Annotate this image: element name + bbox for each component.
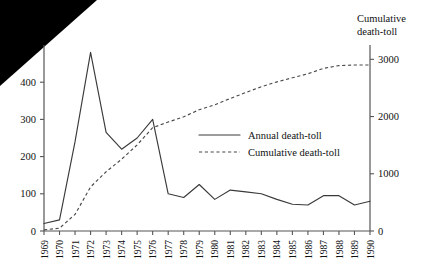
x-axis: 1969197019711972197319741975197619771978… (40, 231, 376, 259)
left-axis-tick-label: 200 (20, 151, 36, 162)
x-axis-tick-label: 1976 (148, 240, 158, 259)
chart-legend: Annual death-toll Cumulative death-toll (199, 130, 340, 158)
x-axis-tick-label: 1985 (288, 240, 298, 259)
left-axis-tick-label: 400 (20, 77, 36, 88)
x-axis-tick-label: 1982 (241, 240, 251, 259)
x-axis-tick-label: 1987 (319, 240, 329, 259)
x-axis-tick-label: 1977 (164, 240, 174, 259)
right-axis-tick-label: 2000 (378, 111, 399, 122)
left-axis: 0100200300400 (20, 45, 44, 237)
x-axis-tick-label: 1983 (257, 240, 267, 259)
right-axis-tick-label: 1000 (378, 168, 399, 179)
x-axis-tick-label: 1975 (133, 240, 143, 259)
right-axis-tick-label: 3000 (378, 54, 399, 65)
right-axis-tick-label: 0 (378, 226, 383, 237)
series-layer (44, 52, 370, 229)
black-corner-artifact (0, 0, 97, 86)
x-axis-tick-label: 1971 (71, 240, 81, 259)
x-axis-tick-label: 1970 (55, 240, 65, 259)
left-axis-tick-label: 300 (20, 114, 36, 125)
x-axis-tick-label: 1986 (304, 240, 314, 259)
line-chart: 0100200300400 0100020003000 196919701971… (0, 0, 422, 272)
x-axis-tick-label: 1984 (272, 240, 282, 259)
x-axis-tick-label: 1988 (335, 240, 345, 259)
x-axis-tick-label: 1979 (195, 240, 205, 259)
legend-label-cumulative: Cumulative death-toll (248, 147, 340, 158)
x-axis-tick-label: 1974 (117, 240, 127, 259)
right-axis-title: Cumulative death-toll (357, 13, 406, 37)
x-axis-tick-label: 1978 (179, 240, 189, 259)
left-axis-tick-label: 0 (31, 226, 36, 237)
left-axis-tick-label: 100 (20, 188, 36, 199)
x-axis-tick-label: 1981 (226, 240, 236, 259)
right-axis: 0100020003000 (370, 45, 399, 237)
right-axis-title-line2: death-toll (357, 26, 397, 37)
x-axis-tick-label: 1980 (210, 240, 220, 259)
x-axis-tick-label: 1972 (86, 240, 96, 259)
chart-container: 0100200300400 0100020003000 196919701971… (0, 0, 422, 272)
x-axis-tick-label: 1969 (40, 240, 50, 259)
x-axis-tick-label: 1990 (366, 240, 376, 259)
legend-label-annual: Annual death-toll (248, 130, 322, 141)
x-axis-tick-label: 1973 (102, 240, 112, 259)
x-axis-tick-label: 1989 (350, 240, 360, 259)
right-axis-title-line1: Cumulative (357, 13, 406, 24)
